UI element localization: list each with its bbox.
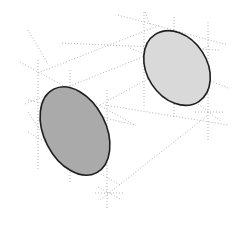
guide-line xyxy=(198,104,222,122)
disks-group xyxy=(26,18,224,187)
guide-line xyxy=(100,115,208,200)
guide-line xyxy=(38,25,160,73)
front-disk xyxy=(26,75,124,187)
guide-line xyxy=(105,105,228,125)
guide-line xyxy=(28,30,48,64)
disks-diagram xyxy=(0,0,243,227)
